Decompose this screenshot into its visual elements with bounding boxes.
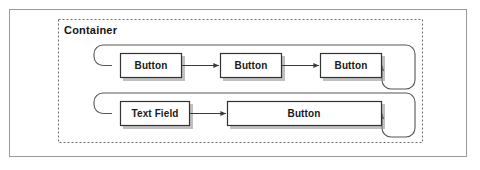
diagram-canvas: Container Button Button [0,0,480,170]
container-title: Container [64,24,118,36]
node-text-field-label: Text Field [132,108,179,119]
node-text-field[interactable]: Text Field [121,102,194,130]
node-button-wide[interactable]: Button [228,102,386,130]
node-button-3-label: Button [335,60,368,71]
node-button-2[interactable]: Button [221,54,286,82]
diagram-root: Container Button Button [0,0,480,170]
node-button-3[interactable]: Button [321,54,386,82]
node-button-2-label: Button [235,60,268,71]
node-button-wide-label: Button [288,108,321,119]
node-button-1[interactable]: Button [121,54,186,82]
node-button-1-label: Button [135,60,168,71]
